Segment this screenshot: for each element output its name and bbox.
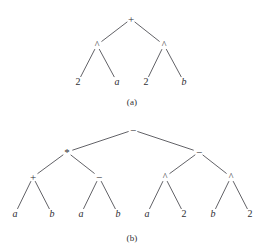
tree-edge xyxy=(71,155,94,173)
tree-edge xyxy=(18,182,31,209)
tree-node-operator: ^ xyxy=(163,172,168,182)
tree-node-variable: b xyxy=(50,209,55,219)
tree-node-number: 2 xyxy=(76,77,81,87)
tree-edge xyxy=(84,182,97,209)
tree-edge xyxy=(167,181,181,208)
expression-tree-figure: +^^2a2b(a)−*−+−^^ababa2b2(b) xyxy=(0,0,265,252)
tree-node-operator: ^ xyxy=(162,40,167,50)
tree-node-variable: b xyxy=(116,209,121,219)
figure-caption: (a) xyxy=(127,97,138,107)
tree-node-variable: a xyxy=(145,209,150,219)
tree-node-operator: * xyxy=(64,147,70,158)
tree-node-operator: + xyxy=(128,14,134,25)
tree-node-variable: a xyxy=(79,209,84,219)
tree-edge xyxy=(170,155,195,173)
tree-node-operator: − xyxy=(130,125,136,136)
tree-node-operator: − xyxy=(96,172,102,183)
tree-node-operator: − xyxy=(196,147,202,158)
tree-node-number: 2 xyxy=(144,77,149,87)
tree-edge xyxy=(102,22,127,41)
tree-edge xyxy=(135,22,159,41)
tree-edge xyxy=(138,132,194,151)
tree-node-variable: b xyxy=(182,77,187,87)
tree-node-variable: a xyxy=(115,77,120,87)
tree-edge xyxy=(166,49,181,76)
tree-node-number: 2 xyxy=(182,209,187,219)
tree-node-operator: ^ xyxy=(95,40,100,50)
tree-edge xyxy=(233,181,247,208)
tree-edge xyxy=(203,155,226,173)
tree-node-variable: a xyxy=(13,209,18,219)
tree-edge xyxy=(150,182,163,209)
tree-edge xyxy=(81,49,95,76)
tree-edge xyxy=(149,50,162,77)
tree-edge xyxy=(216,182,229,209)
tree-node-number: 2 xyxy=(248,209,253,219)
tree-node-operator: + xyxy=(30,172,36,183)
tree-edge xyxy=(101,181,115,208)
tree-node-operator: ^ xyxy=(229,172,234,182)
tree-node-variable: b xyxy=(211,209,216,219)
tree-edge xyxy=(38,155,63,173)
tree-edge xyxy=(35,181,49,208)
tree-edge xyxy=(73,132,129,151)
figure-caption: (b) xyxy=(126,233,137,243)
tree-edge xyxy=(99,49,114,76)
